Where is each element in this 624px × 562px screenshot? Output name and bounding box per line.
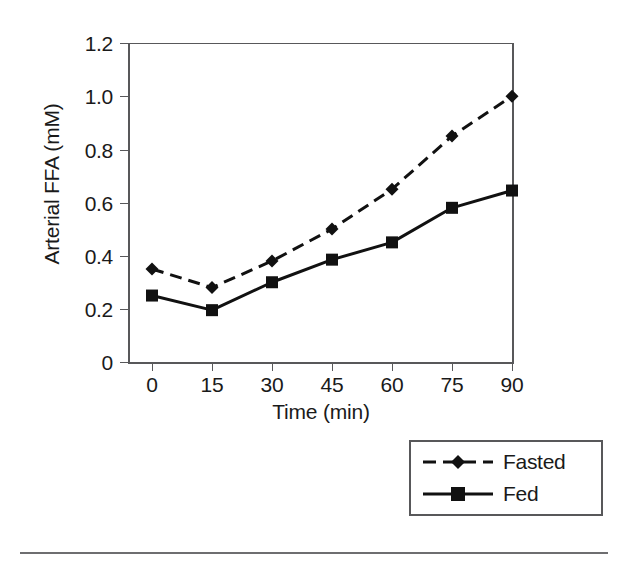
data-point-square-icon: [266, 276, 278, 288]
data-point-square-icon: [326, 254, 338, 266]
data-point-square-icon: [386, 236, 398, 248]
figure-container: 1.2 1.0 0.8 0.6 0.4 0.2 0 0 15 30 45 60 …: [0, 0, 624, 562]
x-tick-mark: [332, 363, 333, 371]
series-fasted: [146, 90, 519, 294]
y-axis-line: [128, 43, 130, 364]
x-tick-label-15: 15: [182, 374, 242, 396]
y-tick-label: 0.2: [85, 299, 113, 320]
data-point-diamond-icon: [266, 254, 279, 267]
y-tick-label: 0.8: [85, 140, 113, 161]
y-tick-label: 1.0: [85, 86, 113, 107]
data-point-square-icon: [446, 202, 458, 214]
series-line-fasted: [152, 96, 512, 287]
data-point-diamond-icon: [146, 262, 159, 275]
x-tick-mark: [212, 363, 213, 371]
y-tick-mark: [120, 256, 128, 257]
legend-label-fed: Fed: [503, 483, 538, 505]
x-axis-title: Time (min): [128, 400, 514, 424]
legend-label-fasted: Fasted: [503, 451, 565, 473]
bottom-divider: [20, 552, 608, 554]
data-point-diamond-icon: [446, 130, 459, 143]
x-tick-label-0: 0: [122, 374, 182, 396]
y-tick-mark: [120, 43, 128, 44]
data-point-diamond-icon: [386, 183, 399, 196]
y-tick-label: 1.2: [85, 33, 113, 54]
series-line-fed: [152, 191, 512, 311]
data-point-diamond-icon: [206, 281, 219, 294]
x-tick-mark: [272, 363, 273, 371]
y-tick-mark: [120, 96, 128, 97]
legend-box: Fasted Fed: [409, 440, 603, 516]
y-tick-label: 0: [102, 352, 113, 373]
y-tick-mark: [120, 150, 128, 151]
legend-sample-fasted: [421, 451, 495, 473]
y-tick-mark: [120, 309, 128, 310]
x-tick-label-75: 75: [422, 374, 482, 396]
y-tick-mark: [120, 203, 128, 204]
y-tick-mark: [120, 362, 128, 363]
y-tick-1.2: 1.2: [0, 33, 113, 54]
x-tick-label-45: 45: [302, 374, 362, 396]
legend-entry-fasted: Fasted: [421, 448, 565, 476]
legend-sample-fed: [421, 483, 495, 505]
plot-frame-right: [512, 43, 514, 364]
x-tick-mark: [512, 363, 513, 371]
x-tick-label-30: 30: [242, 374, 302, 396]
y-tick-label: 0.4: [85, 246, 113, 267]
diamond-icon: [451, 455, 465, 469]
x-tick-label-90: 90: [482, 374, 542, 396]
data-point-square-icon: [146, 290, 158, 302]
x-tick-mark: [152, 363, 153, 371]
x-axis-line: [128, 362, 514, 364]
data-point-diamond-icon: [326, 223, 339, 236]
x-tick-mark: [392, 363, 393, 371]
y-tick-label: 0.6: [85, 193, 113, 214]
data-point-square-icon: [206, 304, 218, 316]
plot-frame-top: [128, 43, 514, 44]
legend-entry-fed: Fed: [421, 480, 538, 508]
x-tick-mark: [452, 363, 453, 371]
series-fed: [146, 185, 518, 317]
y-axis-title: Arterial FFA (mM): [40, 54, 64, 314]
square-icon: [451, 487, 465, 501]
x-tick-label-60: 60: [362, 374, 422, 396]
y-tick-0: 0: [0, 352, 113, 373]
